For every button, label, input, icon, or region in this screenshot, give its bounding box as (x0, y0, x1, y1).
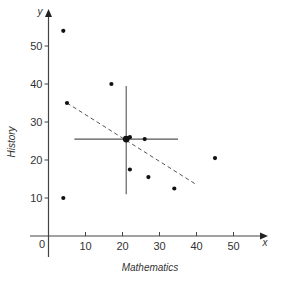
x-axis-title: Mathematics (122, 262, 179, 273)
y-axis-title: History (6, 125, 17, 157)
trend-line (67, 103, 197, 185)
data-points (61, 29, 217, 200)
scatter-chart: 1020304050 1020304050 0 x y Mathematics … (0, 0, 281, 284)
data-point (65, 101, 69, 105)
axes (30, 9, 268, 257)
data-point (109, 82, 113, 86)
data-point (146, 175, 150, 179)
y-axis-arrow-icon (45, 9, 52, 17)
data-point (128, 167, 132, 171)
x-ticks: 1020304050 (79, 232, 239, 252)
data-point (61, 196, 65, 200)
regression-line (67, 103, 197, 185)
x-tick-label: 40 (190, 240, 202, 252)
data-point (213, 156, 217, 160)
y-tick-label: 10 (30, 192, 42, 204)
x-tick-label: 30 (153, 240, 165, 252)
origin-label: 0 (39, 238, 45, 250)
x-axis-letter: x (262, 237, 269, 248)
mean-point (123, 136, 130, 143)
y-axis-letter: y (37, 6, 44, 17)
y-tick-label: 30 (30, 116, 42, 128)
x-tick-label: 50 (227, 240, 239, 252)
data-point (61, 29, 65, 33)
y-tick-label: 50 (30, 40, 42, 52)
y-tick-label: 40 (30, 78, 42, 90)
data-point (143, 137, 147, 141)
y-tick-label: 20 (30, 154, 42, 166)
y-ticks: 1020304050 (30, 40, 48, 204)
x-tick-label: 20 (116, 240, 128, 252)
x-tick-label: 10 (79, 240, 91, 252)
data-point (172, 186, 176, 190)
